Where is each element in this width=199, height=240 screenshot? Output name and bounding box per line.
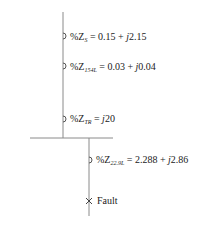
fault-label: Fault [97,195,118,207]
impedance-label-source: %ZS = 0.15 + j2.15 [70,31,147,46]
impedance-label-line154: %Z154L = 0.03 + j0.04 [70,61,156,76]
impedance-label-line229: %Z22.9L = 2.288 + j2.86 [96,154,188,169]
impedance-label-transformer: %ZTR = j20 [70,113,115,128]
